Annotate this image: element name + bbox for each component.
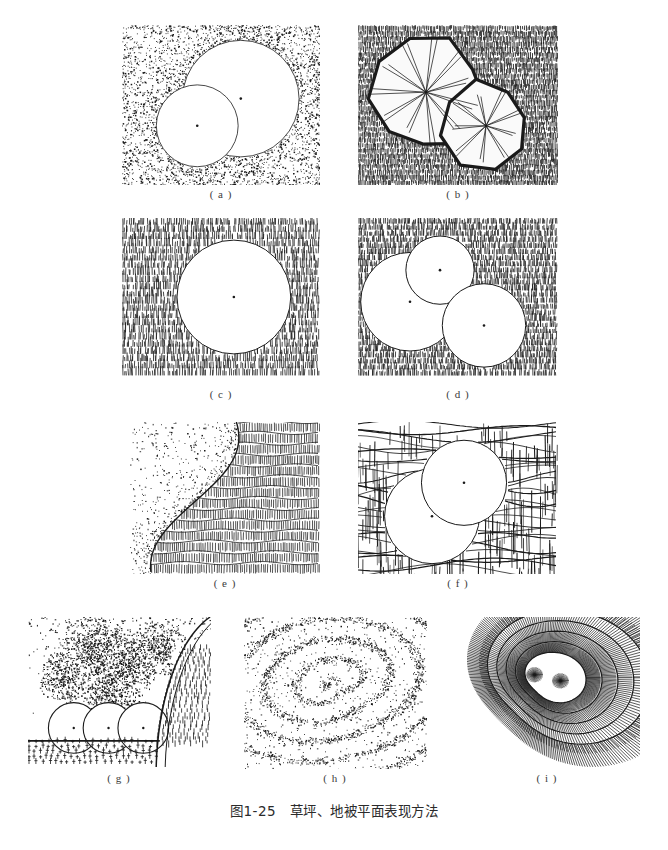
panel-e	[130, 422, 320, 574]
panel-i	[455, 617, 640, 769]
panel-g	[28, 617, 211, 769]
panel-label-i: ( i )	[517, 772, 577, 784]
panel-label-e: ( e )	[195, 577, 255, 589]
panel-label-b: ( b )	[428, 188, 488, 200]
panel-f	[358, 422, 558, 574]
panel-label-f: ( f )	[428, 577, 488, 589]
panel-label-a: ( a )	[191, 188, 251, 200]
panel-h	[244, 617, 427, 769]
panel-label-h: ( h )	[305, 772, 365, 784]
figure-page: ( a ) ( b ) ( c ) ( d ) ( e ) ( f ) ( g …	[0, 0, 668, 850]
panel-c	[122, 218, 320, 376]
panel-d	[358, 218, 558, 376]
panel-label-g: ( g )	[89, 772, 149, 784]
panel-a	[122, 25, 320, 185]
panel-label-d: ( d )	[428, 388, 488, 400]
panel-label-c: ( c )	[191, 388, 251, 400]
figure-caption: 图1-25 草坪、地被平面表现方法	[0, 800, 668, 820]
panel-b	[358, 25, 558, 185]
